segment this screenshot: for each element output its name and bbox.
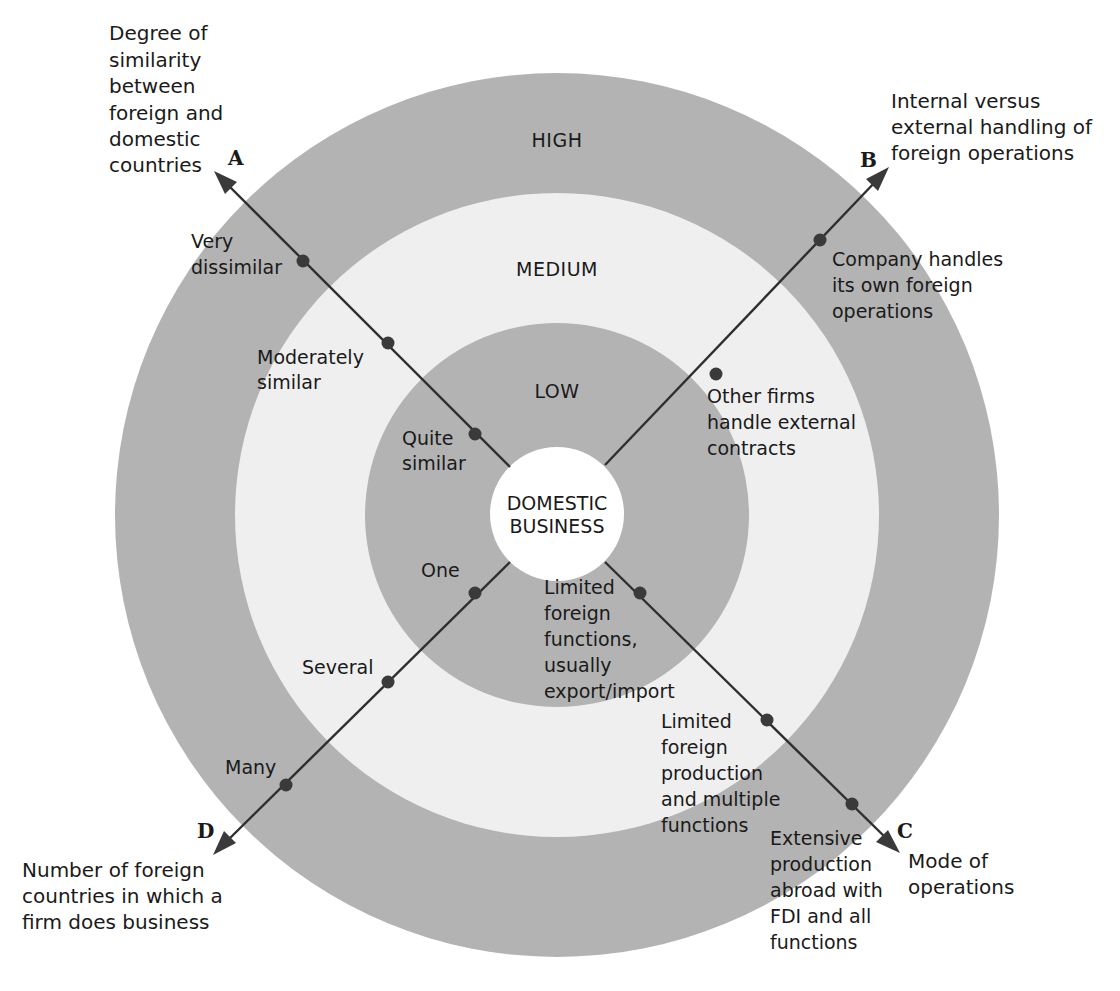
axis-c-letter: C bbox=[897, 819, 913, 843]
zone-label-high: HIGH bbox=[532, 129, 583, 151]
point-label-line: Other firms bbox=[707, 385, 815, 407]
axis-c-point-3 bbox=[846, 798, 859, 811]
axis-d-title-line: firm does business bbox=[22, 910, 210, 934]
axis-b-title: Internal versus external handling of for… bbox=[891, 89, 1093, 165]
axis-d-letter: D bbox=[197, 819, 214, 843]
axis-b-point-2 bbox=[814, 234, 827, 247]
axis-a-letter: A bbox=[227, 146, 244, 170]
axis-a-title-line: between bbox=[109, 74, 195, 98]
point-label-line: production bbox=[661, 762, 763, 784]
point-label-line: abroad with bbox=[770, 879, 883, 901]
axis-b-letter: B bbox=[860, 148, 877, 172]
point-label-line: Moderately bbox=[257, 346, 364, 368]
axis-c-title: Mode of operations bbox=[908, 849, 1014, 899]
axis-a-point-3 bbox=[297, 255, 310, 268]
axis-a-title-line: countries bbox=[109, 153, 202, 177]
point-label-line: foreign bbox=[544, 602, 611, 624]
axis-d-point-2-label: Several bbox=[302, 656, 373, 678]
axis-a-title-line: Degree of bbox=[109, 21, 208, 45]
point-label-line: functions bbox=[770, 931, 858, 953]
point-label-line: Limited bbox=[661, 710, 732, 732]
axis-d-point-1-label: One bbox=[421, 559, 460, 581]
zone-label-low: LOW bbox=[534, 380, 579, 402]
point-label-line: handle external bbox=[707, 411, 856, 433]
point-label-line: Limited bbox=[544, 576, 615, 598]
point-label-line: One bbox=[421, 559, 460, 581]
axis-c-point-2 bbox=[761, 714, 774, 727]
axis-a-point-2 bbox=[382, 337, 395, 350]
domestic-business-core bbox=[490, 447, 624, 581]
axis-a-title-line: similarity bbox=[109, 48, 201, 72]
axis-c-title-line: operations bbox=[908, 875, 1014, 899]
axis-d-point-1 bbox=[469, 587, 482, 600]
axis-b-point-2-label: Company handles its own foreign operatio… bbox=[832, 248, 1003, 322]
axis-b-title-line: external handling of bbox=[891, 115, 1093, 139]
point-label-line: Many bbox=[225, 756, 276, 778]
point-label-line: contracts bbox=[707, 437, 796, 459]
point-label-line: functions bbox=[661, 814, 749, 836]
point-label-line: Company handles bbox=[832, 248, 1003, 270]
point-label-line: Extensive bbox=[770, 827, 863, 849]
point-label-line: Very bbox=[191, 230, 233, 252]
axis-a-title: Degree of similarity between foreign and… bbox=[109, 21, 223, 177]
zone-label-medium: MEDIUM bbox=[516, 258, 598, 280]
point-label-line: Quite bbox=[402, 427, 453, 449]
core-label-line-1: DOMESTIC bbox=[507, 492, 608, 514]
point-label-line: FDI and all bbox=[770, 905, 871, 927]
point-label-line: similar bbox=[402, 452, 466, 474]
point-label-line: Several bbox=[302, 656, 373, 678]
internationalization-diagram: HIGH MEDIUM LOW DOMESTIC BUSINESS A B C … bbox=[0, 0, 1120, 991]
point-label-line: its own foreign bbox=[832, 274, 973, 296]
axis-c-point-1 bbox=[634, 587, 647, 600]
axis-b-point-1 bbox=[710, 368, 723, 381]
axis-d-point-3-label: Many bbox=[225, 756, 276, 778]
axis-d-title: Number of foreign countries in which a f… bbox=[22, 858, 223, 934]
point-label-line: usually bbox=[544, 654, 611, 676]
axis-d-title-line: countries in which a bbox=[22, 884, 223, 908]
point-label-line: dissimilar bbox=[191, 256, 282, 278]
axis-d-point-2 bbox=[382, 676, 395, 689]
core-label-line-2: BUSINESS bbox=[510, 515, 605, 537]
axis-a-point-1 bbox=[469, 428, 482, 441]
point-label-line: similar bbox=[257, 371, 321, 393]
axis-b-title-line: foreign operations bbox=[891, 141, 1074, 165]
axis-c-point-3-label: Extensive production abroad with FDI and… bbox=[770, 827, 883, 953]
axis-a-title-line: domestic bbox=[109, 127, 201, 151]
axis-d-point-3 bbox=[280, 779, 293, 792]
point-label-line: functions, bbox=[544, 628, 638, 650]
axis-d-title-line: Number of foreign bbox=[22, 858, 205, 882]
axis-a-title-line: foreign and bbox=[109, 101, 223, 125]
axis-b-title-line: Internal versus bbox=[891, 89, 1040, 113]
axis-c-title-line: Mode of bbox=[908, 849, 989, 873]
point-label-line: export/import bbox=[544, 680, 675, 702]
point-label-line: foreign bbox=[661, 736, 728, 758]
point-label-line: operations bbox=[832, 300, 933, 322]
point-label-line: production bbox=[770, 853, 872, 875]
point-label-line: and multiple bbox=[661, 788, 780, 810]
